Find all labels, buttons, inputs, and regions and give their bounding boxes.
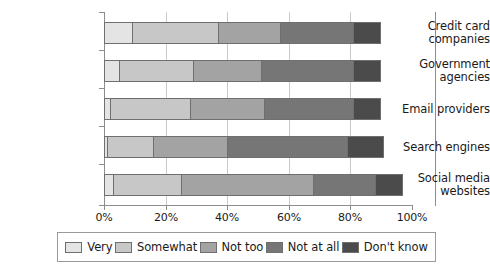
x-tick-label-0: 0% bbox=[95, 211, 112, 224]
x-tick-label-100: 100% bbox=[397, 211, 428, 224]
stacked-bar-chart: 0%20%40%60%80%100% Credit cardcompaniesG… bbox=[0, 0, 490, 275]
bar-segment bbox=[113, 174, 181, 196]
legend-swatch-icon bbox=[342, 242, 359, 253]
y-tick-1 bbox=[99, 50, 104, 51]
y-tick-0 bbox=[99, 12, 104, 13]
bar-segment bbox=[280, 22, 354, 44]
legend-item-2[interactable]: Not too bbox=[200, 240, 264, 254]
x-tick-80 bbox=[350, 205, 351, 210]
legend-item-4[interactable]: Don't know bbox=[342, 240, 428, 254]
bar-segment bbox=[218, 22, 280, 44]
x-tick-label-40: 40% bbox=[215, 211, 239, 224]
bar-segment bbox=[104, 22, 132, 44]
x-tick-60 bbox=[289, 205, 290, 210]
bar-segment bbox=[119, 60, 193, 82]
legend-label: Not too bbox=[222, 240, 264, 254]
bar-row bbox=[0, 98, 490, 120]
bar-segment bbox=[261, 60, 353, 82]
bar-segment bbox=[227, 136, 347, 158]
bar-segment bbox=[181, 174, 313, 196]
bar-segment bbox=[190, 98, 264, 120]
bar-segment bbox=[104, 174, 113, 196]
legend-swatch-icon bbox=[65, 242, 82, 253]
bar-segment bbox=[347, 136, 384, 158]
legend-swatch-icon bbox=[200, 242, 217, 253]
x-tick-20 bbox=[166, 205, 167, 210]
bar-segment bbox=[107, 136, 153, 158]
bar-row bbox=[0, 22, 490, 44]
chart-legend: VerySomewhatNot tooNot at allDon't know bbox=[57, 232, 436, 262]
x-tick-0 bbox=[104, 205, 105, 210]
bar-segment bbox=[375, 174, 403, 196]
legend-label: Don't know bbox=[364, 240, 428, 254]
legend-label: Very bbox=[87, 240, 112, 254]
bar-segment bbox=[353, 98, 381, 120]
bar-segment bbox=[313, 174, 375, 196]
x-tick-label-20: 20% bbox=[154, 211, 178, 224]
bar-segment bbox=[353, 22, 381, 44]
bar-segment bbox=[193, 60, 261, 82]
x-tick-label-60: 60% bbox=[277, 211, 301, 224]
bar-segment bbox=[264, 98, 353, 120]
legend-label: Not at all bbox=[288, 240, 339, 254]
y-tick-3 bbox=[99, 126, 104, 127]
legend-item-3[interactable]: Not at all bbox=[266, 240, 339, 254]
bar-segment bbox=[353, 60, 381, 82]
bar-segment bbox=[104, 60, 119, 82]
y-tick-5 bbox=[99, 205, 104, 206]
bar-row bbox=[0, 174, 490, 196]
x-tick-100 bbox=[412, 205, 413, 210]
x-axis-line bbox=[104, 205, 412, 206]
bar-segment bbox=[110, 98, 190, 120]
bar-segment bbox=[153, 136, 227, 158]
bar-row bbox=[0, 136, 490, 158]
x-tick-40 bbox=[227, 205, 228, 210]
bar-segment bbox=[132, 22, 218, 44]
legend-swatch-icon bbox=[266, 242, 283, 253]
legend-swatch-icon bbox=[115, 242, 132, 253]
x-tick-label-80: 80% bbox=[338, 211, 362, 224]
legend-item-1[interactable]: Somewhat bbox=[115, 240, 197, 254]
y-tick-2 bbox=[99, 88, 104, 89]
legend-item-0[interactable]: Very bbox=[65, 240, 112, 254]
y-tick-4 bbox=[99, 164, 104, 165]
bar-row bbox=[0, 60, 490, 82]
legend-label: Somewhat bbox=[137, 240, 197, 254]
